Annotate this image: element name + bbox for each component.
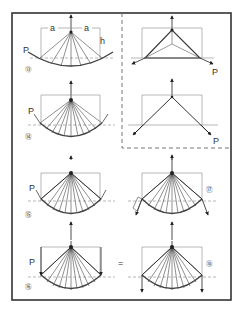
label-a-left: a bbox=[50, 23, 55, 33]
load-p-label-14: P bbox=[28, 106, 34, 116]
panel-number-13: ⑬ bbox=[25, 66, 32, 73]
structural-diagram: a a h P ⑬ bbox=[0, 0, 242, 312]
panel-number-18: ⑱ bbox=[206, 260, 213, 267]
panel-16: P ⑯ bbox=[25, 241, 115, 290]
panel-triangle-truss: P bbox=[131, 16, 218, 77]
label-h: h bbox=[100, 36, 105, 46]
panel-number-14: ⑭ bbox=[25, 133, 32, 140]
panel-number-15: ⑮ bbox=[25, 211, 32, 218]
panel-number-16: ⑯ bbox=[25, 283, 32, 290]
panel-15: P ⑮ bbox=[25, 156, 115, 240]
load-p-label: P bbox=[23, 45, 29, 55]
load-p-label-tri1: P bbox=[212, 67, 218, 77]
load-p-label-15: P bbox=[29, 183, 35, 193]
label-a-right: a bbox=[84, 23, 89, 33]
panel-18: ⑱ bbox=[128, 241, 218, 292]
load-p-label-16: P bbox=[29, 257, 35, 267]
panel-17: ⑰ bbox=[128, 155, 218, 240]
panel-y-strut: P bbox=[128, 79, 219, 146]
load-p-label-tri2: P bbox=[213, 136, 219, 146]
panel-14: P ⑭ bbox=[25, 81, 115, 140]
dashed-separator bbox=[122, 13, 231, 148]
equals-sign: = bbox=[118, 258, 123, 268]
panel-number-17: ⑰ bbox=[206, 186, 213, 193]
panel-13: a a h P ⑬ bbox=[23, 15, 115, 73]
